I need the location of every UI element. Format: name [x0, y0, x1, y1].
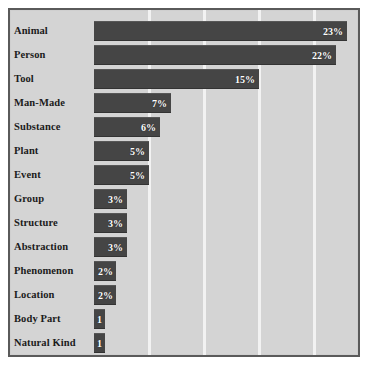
bar-track: 5% — [94, 163, 358, 187]
bar: 6% — [94, 117, 160, 137]
bar-value-label: 22% — [312, 50, 336, 61]
category-label: Substance — [14, 115, 90, 139]
bars-layer: Animal23%Person22%Tool15%Man-Made7%Subst… — [10, 10, 358, 355]
bar-track: 1 — [94, 307, 358, 331]
bar-value-label: 3% — [108, 218, 127, 229]
bar-row: Man-Made7% — [10, 91, 358, 115]
bar-row: Abstraction3% — [10, 235, 358, 259]
bar-row: Group3% — [10, 187, 358, 211]
category-label: Natural Kind — [14, 331, 90, 355]
bar-value-label: 23% — [323, 26, 347, 37]
category-label: Person — [14, 43, 90, 67]
bar-value-label: 5% — [130, 170, 149, 181]
bar-row: Structure3% — [10, 211, 358, 235]
bar-row: Substance6% — [10, 115, 358, 139]
bar-row: Phenomenon2% — [10, 259, 358, 283]
bar-track: 3% — [94, 235, 358, 259]
category-label: Plant — [14, 139, 90, 163]
category-label: Event — [14, 163, 90, 187]
bar: 3% — [94, 237, 127, 257]
category-label: Man-Made — [14, 91, 90, 115]
bar-track: 6% — [94, 115, 358, 139]
bar-row: Animal23% — [10, 19, 358, 43]
bar-track: 15% — [94, 67, 358, 91]
bar-row: Tool15% — [10, 67, 358, 91]
bar-value-label: 1 — [95, 338, 105, 349]
category-label: Abstraction — [14, 235, 90, 259]
category-label: Tool — [14, 67, 90, 91]
bar-value-label: 1 — [95, 314, 105, 325]
bar-track: 3% — [94, 187, 358, 211]
category-label: Body Part — [14, 307, 90, 331]
bar-row: Natural Kind1 — [10, 331, 358, 355]
bar-value-label: 7% — [152, 98, 171, 109]
bar-track: 22% — [94, 43, 358, 67]
bar-track: 7% — [94, 91, 358, 115]
bar-value-label: 3% — [108, 242, 127, 253]
chart-frame: Animal23%Person22%Tool15%Man-Made7%Subst… — [8, 8, 360, 357]
bar-row: Event5% — [10, 163, 358, 187]
bar-value-label: 5% — [130, 146, 149, 157]
bar-track: 2% — [94, 283, 358, 307]
category-label: Phenomenon — [14, 259, 90, 283]
bar-value-label: 2% — [96, 290, 116, 301]
bar-track: 1 — [94, 331, 358, 355]
bar-row: Body Part1 — [10, 307, 358, 331]
bar: 22% — [94, 45, 336, 65]
bar: 15% — [94, 69, 259, 89]
bar-track: 5% — [94, 139, 358, 163]
bar-track: 3% — [94, 211, 358, 235]
bar-value-label: 15% — [235, 74, 259, 85]
bar-track: 23% — [94, 19, 358, 43]
category-label: Group — [14, 187, 90, 211]
bar: 2% — [94, 285, 116, 305]
category-label: Structure — [14, 211, 90, 235]
bar: 23% — [94, 21, 347, 41]
bar-row: Location2% — [10, 283, 358, 307]
bar: 3% — [94, 189, 127, 209]
bar: 5% — [94, 141, 149, 161]
bar-row: Person22% — [10, 43, 358, 67]
category-label: Animal — [14, 19, 90, 43]
bar: 7% — [94, 93, 171, 113]
bar-track: 2% — [94, 259, 358, 283]
bar-value-label: 2% — [96, 266, 116, 277]
bar: 5% — [94, 165, 149, 185]
bar: 3% — [94, 213, 127, 233]
bar: 2% — [94, 261, 116, 281]
bar: 1 — [94, 333, 105, 353]
bar-row: Plant5% — [10, 139, 358, 163]
bar-value-label: 6% — [141, 122, 160, 133]
bar-value-label: 3% — [108, 194, 127, 205]
bar-chart-figure: Animal23%Person22%Tool15%Man-Made7%Subst… — [0, 0, 369, 369]
category-label: Location — [14, 283, 90, 307]
bar: 1 — [94, 309, 105, 329]
